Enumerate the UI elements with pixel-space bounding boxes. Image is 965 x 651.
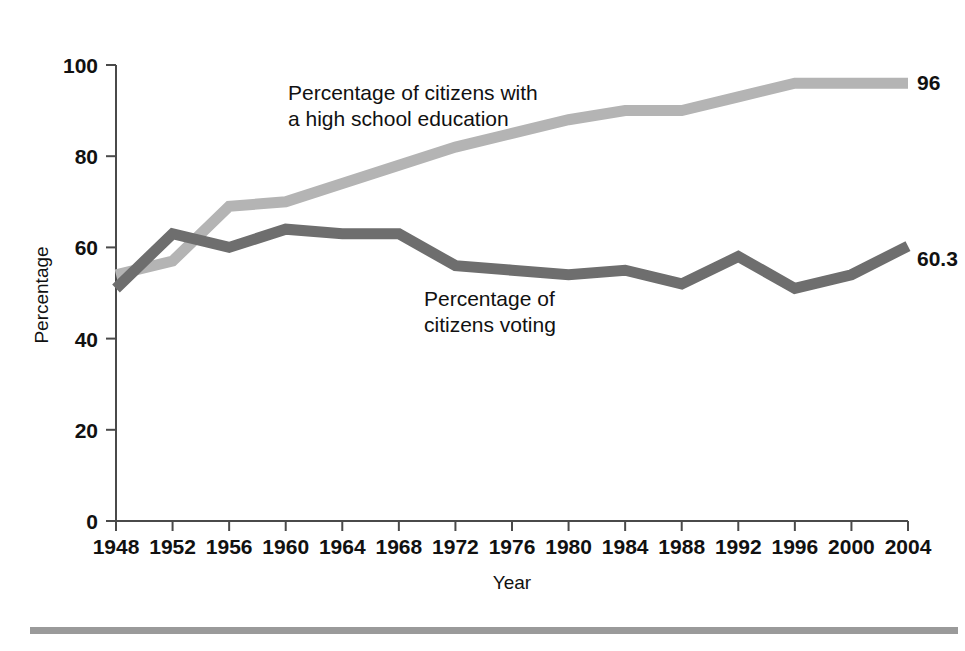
x-tick-label: 1956 xyxy=(206,535,253,558)
x-tick-label: 1996 xyxy=(771,535,818,558)
x-tick-label: 1952 xyxy=(149,535,196,558)
education-annotation-line-1: Percentage of citizens with xyxy=(288,81,538,104)
voting-annotation-line-2: citizens voting xyxy=(424,313,556,336)
voting-end-value-label: 60.3 xyxy=(917,247,958,270)
x-tick-label: 1976 xyxy=(489,535,536,558)
x-tick-label: 2000 xyxy=(828,535,875,558)
y-tick-label: 60 xyxy=(75,236,98,259)
education-annotation-line-2: a high school education xyxy=(288,107,509,130)
x-axis-title: Year xyxy=(493,572,532,593)
x-tick-label: 1960 xyxy=(262,535,309,558)
y-tick-label: 80 xyxy=(75,145,98,168)
x-tick-label: 1984 xyxy=(602,535,649,558)
x-tick-label: 1980 xyxy=(545,535,592,558)
x-tick-label: 1964 xyxy=(319,535,366,558)
education-end-value-label: 96 xyxy=(917,71,940,94)
y-axis-title: Percentage xyxy=(31,246,52,343)
chart-figure: 020406080100 194819521956196019641968197… xyxy=(0,0,965,651)
x-tick-label: 2004 xyxy=(885,535,932,558)
y-tick-label: 100 xyxy=(63,54,98,77)
x-tick-label: 1968 xyxy=(375,535,422,558)
x-tick-label: 1988 xyxy=(658,535,705,558)
x-tick-label: 1972 xyxy=(432,535,479,558)
voting-annotation-line-1: Percentage of xyxy=(424,287,555,310)
y-tick-label: 40 xyxy=(75,328,98,351)
x-tick-label: 1992 xyxy=(715,535,762,558)
bottom-divider-rule xyxy=(30,627,958,634)
x-tick-label: 1948 xyxy=(93,535,140,558)
y-tick-label: 0 xyxy=(86,510,98,533)
y-tick-label: 20 xyxy=(75,419,98,442)
